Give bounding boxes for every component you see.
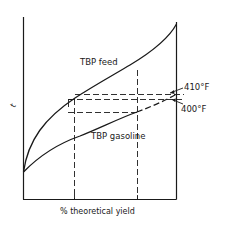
tbp-gasoline-extrapolation [137, 94, 177, 112]
arrow-400-head [172, 99, 176, 103]
tbp-gasoline-label: TBP gasoline [90, 131, 145, 141]
tbp-feed-label: TBP feed [79, 57, 118, 67]
temp-410-label: 410°F [184, 82, 209, 92]
x-axis-label: % theoretical yield [60, 207, 135, 216]
tbp-feed-curve [24, 24, 177, 172]
tbp-gasoline-curve [24, 112, 138, 172]
y-axis-label: t [8, 102, 18, 109]
arrow-410-head [170, 90, 175, 94]
temp-400-label: 400°F [181, 104, 206, 114]
tbp-diagram: TBP feed TBP gasoline 410°F 400°F % theo… [0, 0, 225, 225]
